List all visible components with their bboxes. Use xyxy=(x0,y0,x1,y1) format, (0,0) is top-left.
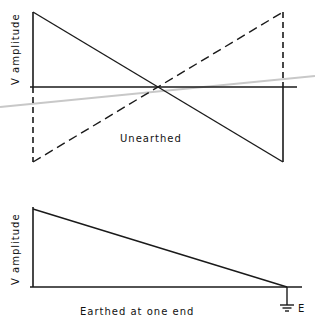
earth-label: E xyxy=(298,303,305,314)
top-diagram-unearthed: V amplitude Unearthed xyxy=(10,12,297,162)
bottom-caption: Earthed at one end xyxy=(80,306,194,317)
top-caption: Unearthed xyxy=(120,133,182,144)
bottom-ylabel: V amplitude xyxy=(10,213,21,285)
top-ylabel: V amplitude xyxy=(10,13,21,85)
diagram-canvas: V amplitude Unearthed E V amplitude Eart… xyxy=(0,0,315,327)
faint-scan-line xyxy=(0,76,315,107)
bottom-diagram-earthed: E V amplitude Earthed at one end xyxy=(10,207,305,317)
bottom-decay-line xyxy=(33,209,287,287)
earth-symbol-icon xyxy=(280,287,294,311)
